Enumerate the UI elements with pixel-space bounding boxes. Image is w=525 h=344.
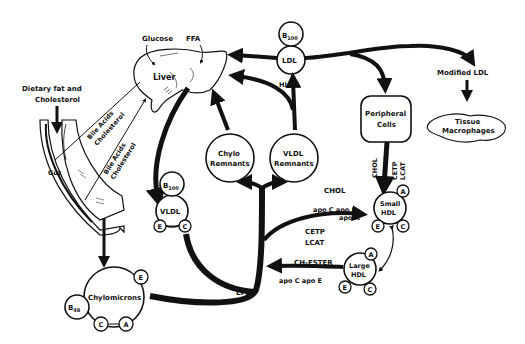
vldl-apo-c: C [183,223,188,231]
chylomicrons-apo-a: A [124,321,129,329]
small-hdl-apo-c: C [401,223,406,231]
small-hdl-line2: HDL [381,209,396,217]
cetp-vertical-label: CETP [391,161,399,180]
dietary-label-line2: Cholesterol [35,96,80,104]
ch-ester-label: CH-ESTER [294,259,333,267]
chylomicrons-label: Chylomicrons [88,294,141,302]
lcat-label: LCAT [305,239,324,247]
small-hdl-apo-a: A [401,188,406,196]
lipoprotein-metabolism-diagram: Liver Glucose FFA Dietary fat and Choles… [0,0,525,344]
ldl-to-modified-ldl-arrow [305,46,471,60]
ldl-to-liver-arrow [235,55,277,58]
lpl-to-chylo-remnants-arrow [244,182,262,188]
lpl-to-vldl-remnants-arrow [262,182,280,188]
chylo-remnants-node[interactable]: Chylo Remnants [206,134,254,182]
chylomicrons-apo-c: C [99,321,104,329]
gut-label: Gut [48,169,61,177]
cetp-label: CETP [305,228,325,236]
chol-label: CHOL [324,187,346,195]
vldl-to-lpl-path [186,234,256,292]
large-hdl-apo-a: A [369,251,374,259]
large-hdl-line1: Large [349,262,370,270]
apoa-top-label: apo A [339,214,360,222]
peripheral-cells[interactable]: Peripheral Cells [361,96,411,142]
vldl-label: VLDL [160,208,181,216]
chylo-remnants-to-liver-arrow [215,96,228,130]
chylomicrons-node[interactable]: Chylomicrons E B48 C A [65,267,148,331]
chylo-remnants-line2: Remnants [210,160,250,168]
liver: Liver [134,48,230,112]
tissue-macrophages[interactable]: Tissue Macrophages [427,114,505,142]
vldl-remnants-line1: VLDL [283,150,304,158]
small-large-hdl-conversion-arrow [380,228,393,270]
large-hdl-apo-e: E [343,284,347,292]
glucose-label: Glucose [142,35,173,43]
chylomicrons-apo-e: E [139,274,143,282]
lcat-vertical-label: LCAT [399,162,407,180]
hl-label: HL [279,81,289,89]
dietary-label-line1: Dietary fat and [22,85,82,93]
lpl-label: LPL [236,289,251,297]
apoc-apoe-top-label: apo C apo E [313,206,356,214]
vldl-node[interactable]: B100 VLDL E C [154,172,191,232]
small-hdl-line1: Small [380,200,400,208]
large-hdl-apo-c: C [368,286,373,294]
chol-vertical-label: CHOL [371,158,379,178]
ldl-to-peripheral-arrow [350,54,385,86]
vldl-remnants-line2: Remnants [274,160,314,168]
vldl-remnants-node[interactable]: VLDL Remnants [270,134,318,182]
large-hdl-line2: HDL [351,271,366,279]
apoc-apoe-bottom-label: apo C apo E [279,277,322,285]
modified-ldl-label: Modified LDL [437,69,489,77]
peripheral-to-small-hdl-arrow [384,142,387,186]
small-hdl-node[interactable]: Small HDL A E C [372,185,409,232]
small-hdl-apo-e: E [376,223,380,231]
cells-label: Cells [377,121,396,129]
ldl-node[interactable]: B100 LDL [277,22,305,74]
ffa-label: FFA [186,35,201,43]
chylo-remnants-line1: Chylo [218,150,240,158]
liver-label: Liver [153,73,175,82]
large-hdl-node[interactable]: Large HDL A E C [339,248,377,295]
ldl-label: LDL [282,57,297,65]
macrophages-label: Macrophages [442,127,495,135]
tissue-label: Tissue [455,118,480,126]
vldl-apo-e: E [158,223,162,231]
peripheral-label: Peripheral [365,110,406,118]
